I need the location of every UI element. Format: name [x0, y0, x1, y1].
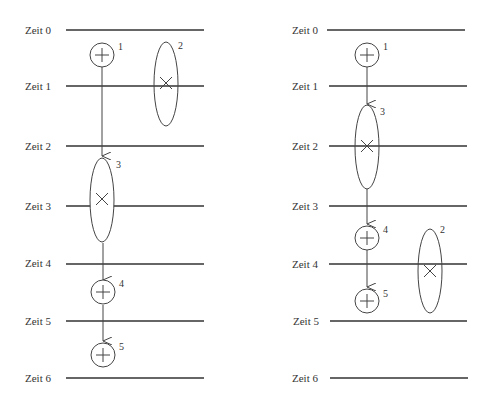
cross-ellipse-icon	[355, 105, 379, 189]
plus-circle-icon	[91, 343, 115, 367]
node-label: 4	[119, 278, 124, 289]
plus-circle-icon	[355, 43, 379, 67]
time-label: Zeit 0	[292, 24, 318, 36]
time-label: Zeit 5	[25, 315, 51, 327]
cross-ellipse-icon	[154, 42, 178, 126]
cross-ellipse-icon	[90, 158, 114, 242]
time-label: Zeit 6	[25, 372, 51, 384]
node-label: 4	[383, 224, 388, 235]
node-label: 5	[119, 341, 124, 352]
time-label: Zeit 0	[25, 24, 51, 36]
time-label: Zeit 3	[292, 200, 318, 212]
left-panel: Zeit 0 Zeit 1 Zeit 2 Zeit 3 Zeit 4 Zeit …	[25, 24, 204, 384]
plus-circle-icon	[355, 289, 379, 313]
time-label: Zeit 4	[25, 257, 51, 269]
time-label: Zeit 6	[292, 372, 318, 384]
time-label: Zeit 1	[25, 80, 51, 92]
node-label: 3	[116, 159, 121, 170]
plus-circle-icon	[90, 43, 114, 67]
cross-ellipse-icon	[418, 229, 442, 313]
node-label: 1	[118, 41, 123, 52]
node-label: 2	[440, 224, 445, 235]
node-label: 2	[178, 40, 183, 51]
time-label: Zeit 5	[293, 315, 319, 327]
node-label: 5	[383, 288, 388, 299]
time-label: Zeit 4	[292, 258, 318, 270]
time-label: Zeit 1	[292, 80, 318, 92]
plus-circle-icon	[355, 226, 379, 250]
time-label: Zeit 2	[292, 140, 318, 152]
right-panel: Zeit 0 Zeit 1 Zeit 2 Zeit 3 Zeit 4 Zeit …	[292, 24, 468, 384]
node-label: 1	[383, 41, 388, 52]
timeline-diagram: Zeit 0 Zeit 1 Zeit 2 Zeit 3 Zeit 4 Zeit …	[0, 0, 487, 401]
node-label: 3	[380, 106, 385, 117]
plus-circle-icon	[91, 280, 115, 304]
time-label: Zeit 3	[25, 200, 51, 212]
time-label: Zeit 2	[25, 140, 51, 152]
